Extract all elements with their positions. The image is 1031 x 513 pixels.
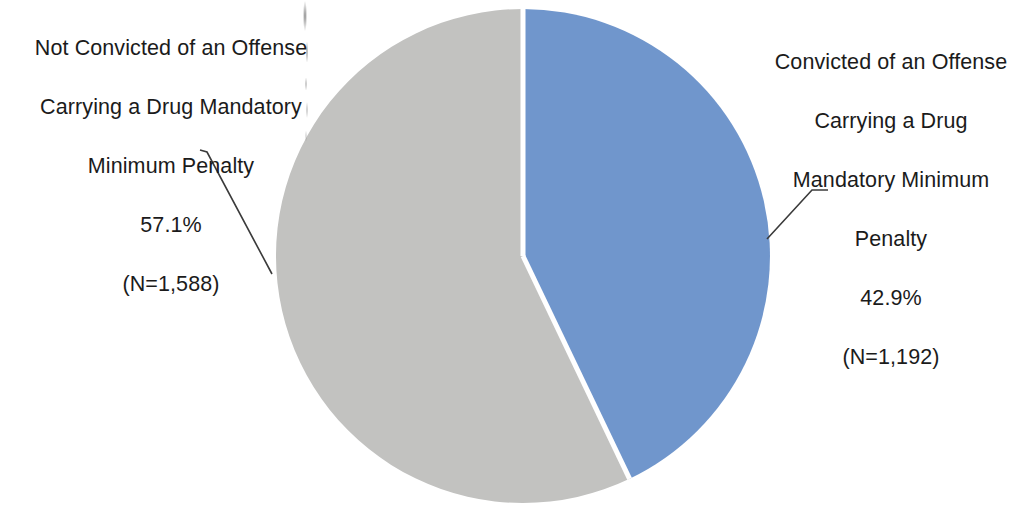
- label-right-line-4: Penalty: [752, 225, 1030, 255]
- label-left-line-1: Not Convicted of an Offense: [2, 34, 340, 64]
- label-left-count: (N=1,588): [2, 270, 340, 300]
- label-right-count: (N=1,192): [752, 343, 1030, 373]
- label-left-percent: 57.1%: [2, 211, 340, 241]
- slice-label-not-convicted: Not Convicted of an Offense Carrying a D…: [2, 4, 340, 329]
- pie-chart-figure: Not Convicted of an Offense Carrying a D…: [0, 0, 1031, 513]
- label-right-line-3: Mandatory Minimum: [752, 166, 1030, 196]
- label-right-percent: 42.9%: [752, 284, 1030, 314]
- label-left-line-2: Carrying a Drug Mandatory: [2, 93, 340, 123]
- label-left-line-3: Minimum Penalty: [2, 152, 340, 182]
- slice-label-convicted: Convicted of an Offense Carrying a Drug …: [752, 18, 1030, 402]
- label-right-line-1: Convicted of an Offense: [752, 48, 1030, 78]
- label-right-line-2: Carrying a Drug: [752, 107, 1030, 137]
